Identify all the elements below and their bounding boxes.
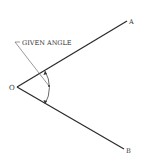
- annotation-label: GIVEN ANGLE: [22, 39, 72, 47]
- leader-line: [15, 42, 49, 86]
- ray-a-label: A: [128, 18, 134, 26]
- leader-dot: [48, 85, 50, 87]
- angle-arc: [45, 71, 49, 104]
- ray-oa: [17, 21, 127, 87]
- ray-ob: [17, 87, 124, 149]
- ray-b-label: B: [126, 147, 131, 155]
- angle-diagram: GIVEN ANGLE O A B: [0, 0, 144, 159]
- vertex-label: O: [9, 84, 15, 92]
